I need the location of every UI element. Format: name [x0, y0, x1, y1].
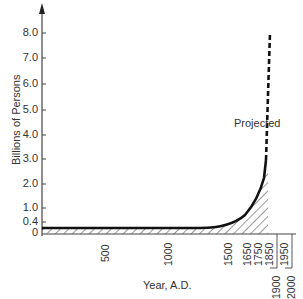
- x-tick-label-1900: 1900: [270, 276, 282, 299]
- x-tick-label-500: 500: [99, 244, 111, 262]
- y-tick-label-8: 8.0: [4, 26, 38, 38]
- x-tick-label-2000: 2000: [285, 276, 297, 299]
- x-tick-label-1950: 1950: [278, 243, 290, 266]
- y-tick-label-7: 7.0: [4, 51, 38, 63]
- y-axis-title: Billions of Persons: [10, 75, 22, 166]
- projected-line: [266, 33, 270, 160]
- projected-annotation: Projected: [234, 117, 280, 129]
- population-line: [42, 160, 266, 228]
- y-axis-arrow-icon: [39, 3, 45, 14]
- x-axis-title: Year, A.D.: [143, 279, 192, 291]
- x-tick-label-1000: 1000: [162, 243, 174, 266]
- y-tick-label-0: 0: [4, 226, 38, 238]
- x-tick-label-1500: 1500: [222, 243, 234, 266]
- y-tick-label-1: 1.0: [4, 201, 38, 213]
- y-tick-label-2: 2.0: [4, 177, 38, 189]
- hatched-area: [42, 168, 268, 234]
- x-tick-label-1850: 1850: [263, 243, 275, 266]
